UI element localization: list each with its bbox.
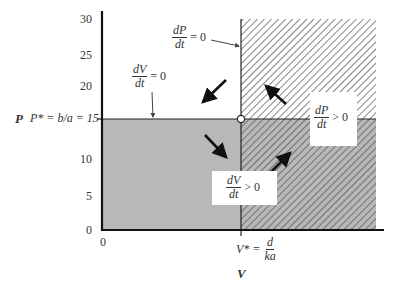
dV-pointer-arrow-icon — [152, 92, 153, 117]
y-tick-30: 30 — [62, 12, 92, 27]
y-tick-20: 20 — [62, 79, 92, 94]
v-star-fraction: d ka — [264, 236, 275, 263]
y-tick-10: 10 — [62, 152, 92, 167]
dP-dt-positive-label: dPdt > 0 — [314, 104, 348, 131]
v-star-lhs: V* = — [236, 242, 260, 257]
x-tick-0: 0 — [100, 235, 106, 250]
p-star-label: P* = b/a = 15 — [30, 111, 99, 126]
arrow-down-left-icon — [203, 80, 226, 102]
y-tick-5: 5 — [62, 189, 92, 204]
equilibrium-point — [237, 115, 244, 122]
y-axis-label: P — [15, 111, 23, 127]
phase-plane-diagram: 30 25 20 10 5 0 0 P P* = b/a = 15 V* = d… — [0, 0, 394, 290]
y-tick-0: 0 — [62, 223, 92, 238]
dP-pointer-arrow-icon — [211, 40, 239, 46]
dP-dt-zero-label: dPdt = 0 — [172, 24, 206, 51]
v-star-label: V* = d ka — [236, 236, 276, 263]
x-axis-label: V — [237, 266, 246, 282]
y-tick-25: 25 — [62, 48, 92, 63]
dV-dt-zero-label: dVdt = 0 — [132, 63, 166, 90]
dV-dt-positive-label: dVdt > 0 — [226, 174, 260, 201]
